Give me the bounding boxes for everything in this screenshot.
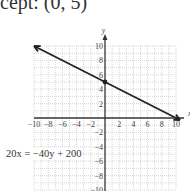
x-tick-label: −4	[72, 120, 81, 129]
x-tick-label: 4	[131, 120, 135, 129]
x-axis-label: x	[187, 109, 190, 118]
data-line	[34, 46, 180, 120]
x-tick-label: −8	[44, 120, 53, 129]
y-tick-label: −6	[94, 157, 103, 166]
x-tick-label: 6	[146, 120, 150, 129]
y-tick-label: 4	[99, 85, 103, 94]
equation-label: 20x = −40y + 200	[6, 148, 82, 159]
y-tick-label: −2	[94, 128, 103, 137]
y-tick-label: −8	[94, 172, 103, 181]
y-tick-label: −4	[94, 143, 103, 152]
coordinate-plane: yx −10−8−6−4−2246810108642−2−4−6−8−10	[0, 0, 190, 191]
y-axis-label: y	[101, 26, 106, 35]
y-tick-label: 8	[99, 56, 103, 65]
y-tick-label: −10	[90, 186, 103, 191]
x-tick-label: 8	[160, 120, 164, 129]
x-tick-label: −10	[28, 120, 41, 129]
x-tick-label: 10	[172, 120, 180, 129]
x-tick-label: 2	[117, 120, 121, 129]
y-tick-label: 10	[95, 42, 103, 51]
y-tick-label: 2	[99, 100, 103, 109]
intercept-point	[103, 80, 108, 85]
x-tick-label: −6	[58, 120, 67, 129]
